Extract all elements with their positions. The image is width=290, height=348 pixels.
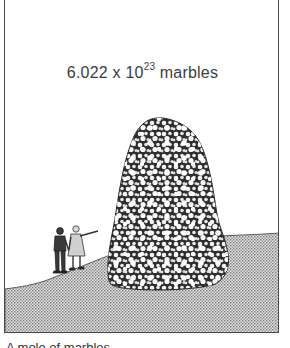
figure-caption: A mole of marbles (6, 338, 110, 348)
illustration-scene (5, 0, 279, 333)
power-exponent: 23 (144, 61, 156, 72)
illustration-frame: 6.022 x 1023 marbles (4, 0, 279, 333)
mantissa: 6.022 (67, 64, 108, 81)
person-standing-icon (53, 228, 69, 273)
mole-marbles-label: 6.022 x 1023 marbles (5, 63, 279, 82)
power-base: 10 (125, 64, 143, 81)
unit-label: marbles (160, 64, 218, 81)
times-sign: x (113, 64, 121, 81)
marble-pile (108, 118, 229, 290)
